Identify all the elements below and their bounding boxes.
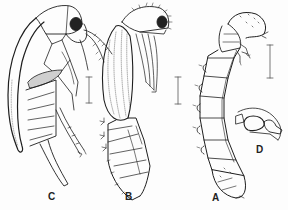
scale-bar-b: [175, 77, 181, 104]
scale-bar-c: [86, 77, 92, 103]
illustration: [0, 0, 288, 210]
panel-label-b: B: [125, 192, 132, 202]
panel-label-d: D: [256, 145, 263, 155]
panel-label-a: A: [212, 193, 219, 203]
larva-drawing: [193, 12, 273, 198]
scale-bar-a: [267, 45, 273, 78]
panel-label-c: C: [48, 192, 55, 202]
detail-d-drawing: [236, 108, 282, 140]
pupa-drawing: [100, 3, 181, 200]
figure-canvas: C B A D: [0, 0, 288, 210]
adult-beetle-drawing: [8, 6, 112, 187]
